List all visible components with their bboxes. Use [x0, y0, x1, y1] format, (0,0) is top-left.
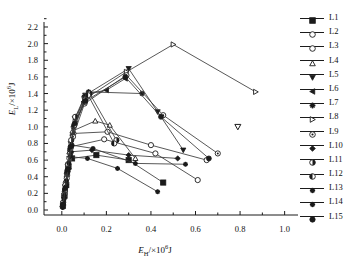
legend-label: L2 [329, 25, 338, 38]
data-point [87, 158, 89, 160]
legend-label: L5 [329, 68, 338, 81]
legend-item-l4[interactable]: L4 [300, 54, 358, 68]
data-point [159, 114, 164, 119]
series-line [63, 155, 163, 206]
legend-marker-circle-halfleft [307, 168, 318, 179]
legend-marker-glyph [310, 46, 316, 52]
legend-label: L14 [329, 195, 343, 208]
series-L2 [60, 137, 200, 210]
legend-label: L1 [329, 11, 338, 24]
legend-label: L3 [329, 39, 338, 52]
chart-figure: EL/×106J EH/×106J 0.00.20.40.60.81.01.21… [0, 0, 358, 269]
data-point [254, 89, 259, 94]
legend-item-l7[interactable]: L7 [300, 96, 358, 110]
data-point [92, 148, 94, 150]
legend-marker-glyph [312, 204, 314, 206]
data-point [68, 144, 73, 149]
series-L3 [61, 129, 210, 207]
legend-label: L6 [329, 82, 338, 95]
data-point [93, 118, 98, 123]
legend-item-l13[interactable]: L13 [300, 181, 358, 195]
legend-label: L15 [329, 210, 343, 223]
legend-item-l5[interactable]: L5 [300, 68, 358, 82]
data-point [195, 177, 200, 182]
data-point [175, 156, 180, 161]
series-L8 [61, 42, 258, 207]
series-line [63, 132, 206, 205]
series-L10 [60, 148, 180, 210]
legend-marker-glyph [310, 18, 316, 24]
legend-item-l12[interactable]: L12 [300, 167, 358, 181]
legend-label: L11 [329, 153, 342, 166]
data-point [83, 99, 88, 104]
legend-item-l10[interactable]: L10 [300, 139, 358, 153]
legend-marker-circle-dot [307, 126, 318, 137]
legend-marker-glyph [310, 117, 315, 123]
data-point [217, 152, 219, 154]
data-point [161, 180, 166, 185]
legend-marker-glyph [310, 75, 316, 80]
legend-marker-triangle-down-filled [307, 69, 318, 80]
legend-marker-glyph [312, 105, 314, 107]
data-point [61, 202, 66, 207]
legend-item-l15[interactable]: L15 [300, 210, 358, 224]
legend-item-l2[interactable]: L2 [300, 25, 358, 39]
axis-frame [44, 22, 298, 215]
legend-marker-glyph [310, 32, 316, 38]
data-point [72, 121, 77, 126]
legend-marker-glyph [312, 190, 314, 192]
data-point [185, 163, 187, 165]
data-point [126, 153, 131, 158]
legend-item-l1[interactable]: L1 [300, 11, 358, 25]
legend-item-l11[interactable]: L11 [300, 153, 358, 167]
legend-marker-glyph [310, 89, 315, 95]
series-line [63, 157, 158, 208]
legend-label: L10 [329, 139, 343, 152]
series-L14 [60, 143, 187, 209]
legend-marker-glyph [310, 145, 316, 151]
data-point [157, 191, 159, 193]
series-line [63, 92, 142, 205]
data-point [102, 137, 107, 142]
legend-marker-square-filled [307, 12, 318, 23]
legend-marker-diamond-filled [307, 140, 318, 151]
series-L13 [60, 154, 160, 210]
data-point [171, 42, 176, 47]
legend-marker-circle-open [307, 40, 318, 51]
legend-marker-triangle-up-open [307, 55, 318, 66]
legend-label: L13 [329, 181, 343, 194]
legend-marker-star-small [307, 196, 318, 207]
legend: L1L2L3L4L5L6L7L8L9L10L11L12L13L14L15 [300, 11, 358, 224]
series-L1 [60, 153, 165, 209]
legend-label: L9 [329, 125, 338, 138]
series-line [63, 139, 198, 206]
legend-marker-circle-open [307, 26, 318, 37]
legend-item-l14[interactable]: L14 [300, 195, 358, 209]
legend-item-l3[interactable]: L3 [300, 39, 358, 53]
legend-label: L12 [329, 167, 343, 180]
legend-label: L7 [329, 96, 338, 109]
legend-marker-star-filled [307, 97, 318, 108]
data-point [206, 156, 211, 161]
data-point [181, 148, 186, 153]
data-point [94, 153, 99, 158]
isolated-L5-outlier [235, 124, 241, 129]
legend-label: L8 [329, 110, 338, 123]
data-point [148, 143, 153, 148]
legend-marker-hexagon-filled [307, 211, 318, 222]
legend-marker-glyph [310, 216, 315, 221]
legend-marker-triangle-right-open [307, 111, 318, 122]
legend-item-l9[interactable]: L9 [300, 125, 358, 139]
data-point [153, 151, 158, 156]
data-point [117, 168, 119, 170]
legend-label: L4 [329, 54, 338, 67]
data-point [235, 124, 241, 129]
legend-marker-circle-half [307, 154, 318, 165]
legend-marker-triangle-left-filled [307, 83, 318, 94]
legend-marker-glyph [310, 60, 316, 65]
data-point [135, 163, 137, 165]
data-point [65, 167, 70, 172]
legend-marker-star-small [307, 182, 318, 193]
legend-item-l8[interactable]: L8 [300, 110, 358, 124]
legend-item-l6[interactable]: L6 [300, 82, 358, 96]
